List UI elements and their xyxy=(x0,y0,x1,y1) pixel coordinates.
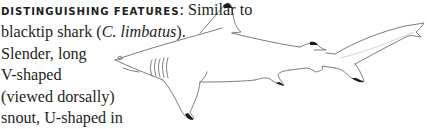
caudal-fin-lower-outline xyxy=(335,64,364,81)
text-line-6: snout, U-shaped in xyxy=(1,108,261,129)
text-line-1: DISTINGUISHING FEATURES: Similar to xyxy=(1,0,261,22)
species-name: C. limbatus xyxy=(102,23,177,41)
text-line-4: V-shaped xyxy=(1,65,261,86)
species-description: DISTINGUISHING FEATURES: Similar to blac… xyxy=(1,0,261,129)
text-line-3: Slender, long xyxy=(1,44,261,65)
text-line-2: blacktip shark (C. limbatus). xyxy=(1,22,261,43)
text-line-5: (viewed dorsally) xyxy=(1,87,261,108)
section-heading: DISTINGUISHING FEATURES xyxy=(1,6,179,17)
